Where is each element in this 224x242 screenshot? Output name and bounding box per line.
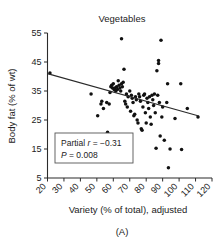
- data-point: [121, 85, 125, 89]
- data-point: [153, 111, 157, 115]
- data-point: [157, 59, 161, 63]
- data-point: [136, 121, 140, 125]
- data-point: [96, 114, 100, 118]
- data-point: [186, 107, 190, 111]
- data-point: [100, 99, 104, 103]
- x-tick-label: 70: [116, 181, 130, 195]
- x-tick-label: 110: [179, 181, 196, 198]
- data-point: [166, 82, 170, 86]
- data-point: [149, 115, 153, 119]
- chart-title: Vegetables: [98, 13, 145, 24]
- data-point: [173, 117, 177, 121]
- data-point: [89, 92, 93, 96]
- y-axis-label: Body fat (% of wt): [6, 69, 17, 144]
- x-tick-label: 50: [83, 181, 97, 195]
- data-point: [154, 146, 158, 150]
- data-point: [144, 111, 148, 115]
- x-tick-label: 20: [34, 181, 48, 195]
- trendline: [48, 74, 199, 116]
- data-point: [168, 147, 172, 151]
- x-tick-label: 40: [67, 181, 81, 195]
- data-point: [156, 94, 160, 98]
- data-point: [153, 92, 157, 96]
- y-tick-label: 45: [31, 57, 41, 67]
- data-point: [143, 92, 147, 96]
- x-tick-label: 90: [149, 181, 163, 195]
- panel-label: (A): [116, 226, 129, 237]
- data-point: [122, 68, 126, 72]
- data-point: [126, 105, 130, 109]
- figure-panel-a: Vegetables 51525354555 Body fat (% of wt…: [0, 0, 224, 242]
- data-point: [112, 82, 116, 86]
- data-point: [102, 107, 106, 111]
- data-point: [180, 148, 184, 152]
- data-point: [141, 105, 145, 109]
- x-axis-label: Variety (% of total), adjusted: [69, 204, 188, 215]
- statistics-annotation: Partial r = −0.31 P = 0.008: [55, 133, 133, 163]
- y-axis: 51525354555 Body fat (% of wt): [6, 28, 48, 183]
- data-point: [129, 110, 133, 114]
- annotation-prefix: Partial: [61, 138, 87, 148]
- scatter-chart: Vegetables 51525354555 Body fat (% of wt…: [0, 0, 224, 242]
- annotation-value-r: = −0.31: [90, 138, 121, 148]
- y-tick-label: 35: [31, 86, 41, 96]
- annotation-line-2: P = 0.008: [61, 150, 98, 160]
- data-point: [119, 89, 123, 93]
- data-point: [131, 101, 135, 105]
- x-axis: 2030405060708090100110120 Variety (% of …: [34, 178, 213, 215]
- data-point: [144, 121, 148, 125]
- y-tick-label: 15: [31, 144, 41, 154]
- y-tick-label: 55: [31, 28, 41, 38]
- data-point: [128, 89, 132, 93]
- data-point: [152, 104, 156, 108]
- data-point: [160, 115, 164, 119]
- x-tick-label: 120: [195, 181, 213, 199]
- data-point: [120, 37, 124, 41]
- data-point: [165, 101, 169, 105]
- data-point: [163, 139, 167, 143]
- data-point: [107, 102, 111, 106]
- x-tick-group: 2030405060708090100110120: [34, 178, 213, 199]
- data-point: [179, 82, 183, 86]
- x-tick-label: 60: [100, 181, 114, 195]
- y-tick-label: 25: [31, 115, 41, 125]
- data-point: [121, 81, 125, 85]
- data-point: [155, 69, 159, 73]
- data-point: [151, 98, 155, 102]
- data-point: [158, 134, 162, 138]
- data-point: [140, 128, 144, 132]
- annotation-line-1: Partial r = −0.31: [61, 138, 122, 148]
- data-point: [147, 107, 151, 111]
- annotation-value-p: = 0.008: [67, 150, 98, 160]
- data-point: [116, 79, 120, 83]
- data-point: [138, 95, 142, 99]
- data-point: [133, 112, 137, 116]
- x-tick-label: 80: [132, 181, 146, 195]
- data-point: [159, 39, 163, 43]
- y-tick-group: 51525354555: [31, 28, 47, 183]
- data-point: [158, 101, 162, 105]
- data-point: [167, 166, 171, 170]
- x-tick-label: 30: [50, 181, 64, 195]
- data-point: [149, 123, 153, 127]
- x-tick-label: 100: [162, 181, 180, 199]
